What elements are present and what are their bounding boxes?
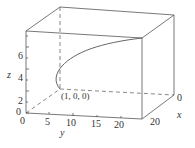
x-tick-label: 20 bbox=[150, 116, 160, 127]
3d-plot: 2 4 6 0 z 0 5 10 15 20 y 0 20 x (1, 0, 0… bbox=[0, 0, 195, 148]
plot-canvas: 2 4 6 0 z 0 5 10 15 20 y 0 20 x (1, 0, 0… bbox=[0, 0, 195, 148]
y-tick-label: 5 bbox=[45, 116, 50, 127]
x-axis-label: x bbox=[176, 109, 182, 120]
y-tick-label: 15 bbox=[91, 118, 101, 129]
y-axis-label: y bbox=[59, 127, 65, 138]
point-annotation: (1, 0, 0) bbox=[61, 91, 90, 101]
z-tick-label: 2 bbox=[18, 95, 23, 106]
curve-line bbox=[56, 38, 142, 89]
y-tick-label: 20 bbox=[114, 119, 124, 130]
z-axis-ticks bbox=[26, 36, 29, 113]
y-tick-label: 0 bbox=[20, 115, 25, 126]
bounding-box bbox=[26, 7, 174, 119]
y-tick-label: 10 bbox=[66, 117, 76, 128]
x-tick-label: 0 bbox=[177, 92, 182, 103]
z-tick-label: 4 bbox=[18, 72, 23, 83]
hidden-edges bbox=[26, 7, 174, 113]
z-axis-label: z bbox=[6, 69, 11, 80]
z-tick-label: 6 bbox=[18, 50, 23, 61]
